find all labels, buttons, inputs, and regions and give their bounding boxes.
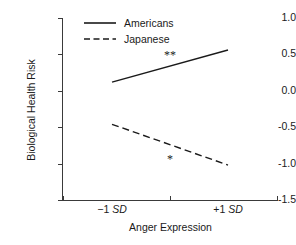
x-tick-label-prefix: −1	[97, 203, 112, 215]
y-axis-title-wrapper: Biological Health Risk	[10, 0, 56, 245]
legend-swatch-dashed-icon	[84, 34, 116, 44]
significance-marker-japanese: *	[167, 154, 173, 164]
x-tick-label-sd: SD	[112, 203, 127, 215]
legend-label-americans: Americans	[124, 17, 174, 29]
legend-label-japanese: Japanese	[124, 33, 170, 45]
legend-item-japanese: Japanese	[84, 31, 174, 47]
x-tick-mark	[277, 196, 278, 201]
x-tick-label-prefix: +1	[213, 203, 228, 215]
y-axis-title: Biological Health Risk	[25, 20, 37, 200]
chart-figure: Biological Health Risk 1.0 0.5 0.0 -0.5 …	[0, 0, 296, 245]
x-tick-label-minus1sd: −1 SD	[97, 203, 126, 215]
x-axis-title: Anger Expression	[63, 221, 278, 233]
legend-swatch-solid-icon	[84, 18, 116, 28]
x-tick-label-sd: SD	[228, 203, 243, 215]
x-tick-label-plus1sd: +1 SD	[213, 203, 242, 215]
legend-item-americans: Americans	[84, 15, 174, 31]
chart-legend: Americans Japanese	[84, 15, 174, 47]
significance-marker-americans: **	[164, 50, 176, 60]
